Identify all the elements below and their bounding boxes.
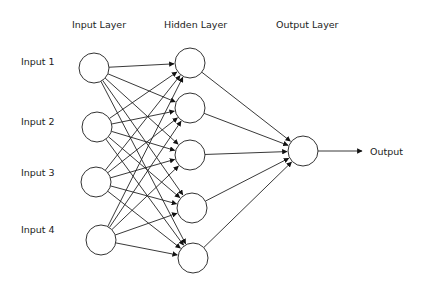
edge-input1-hidden2 — [108, 74, 175, 102]
neural-network-diagram: Input Layer Hidden Layer Output Layer In… — [0, 0, 424, 293]
edge-hidden3-output — [205, 152, 287, 155]
edge-input3-hidden5 — [108, 191, 181, 248]
edge-input1-hidden1 — [109, 64, 174, 67]
input-node-2 — [82, 112, 112, 142]
edge-hidden4-output — [205, 158, 288, 201]
hidden-node-4 — [177, 193, 207, 223]
hidden-node-5 — [178, 243, 208, 273]
network-graph — [0, 0, 424, 293]
input-node-4 — [86, 225, 116, 255]
edge-hidden1-output — [202, 72, 291, 141]
hidden-node-3 — [175, 140, 205, 170]
edge-hidden5-output — [204, 162, 292, 247]
input-node-3 — [81, 167, 111, 197]
output-node — [288, 136, 318, 166]
hidden-node-1 — [175, 48, 205, 78]
edge-input4-hidden4 — [115, 213, 177, 235]
edge-input4-hidden5 — [116, 243, 178, 255]
input-node-1 — [79, 53, 109, 83]
hidden-node-2 — [175, 93, 205, 123]
edge-input4-hidden1 — [108, 77, 183, 226]
